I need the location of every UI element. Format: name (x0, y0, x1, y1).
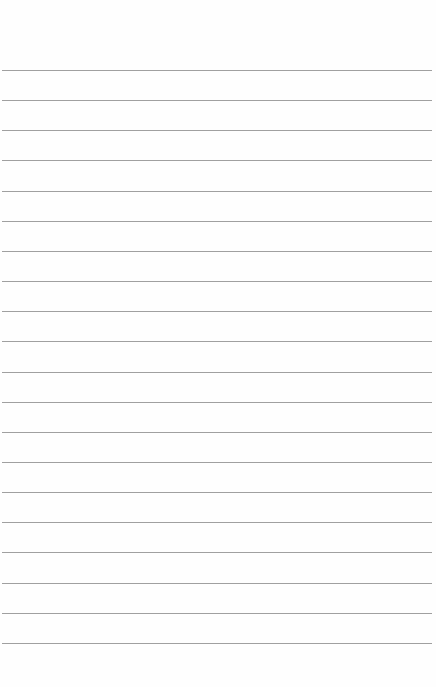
ruled-line (2, 492, 432, 493)
ruled-line (2, 643, 432, 644)
ruled-line (2, 160, 432, 161)
ruled-line (2, 221, 432, 222)
ruled-line (2, 432, 432, 433)
ruled-line (2, 372, 432, 373)
ruled-line (2, 341, 432, 342)
ruled-line (2, 281, 432, 282)
ruled-line (2, 130, 432, 131)
ruled-line (2, 552, 432, 553)
ruled-line (2, 311, 432, 312)
ruled-line (2, 583, 432, 584)
ruled-line (2, 402, 432, 403)
ruled-line (2, 522, 432, 523)
ruled-line (2, 191, 432, 192)
ruled-line (2, 100, 432, 101)
ruled-line (2, 613, 432, 614)
ruled-line (2, 462, 432, 463)
ruled-line (2, 70, 432, 71)
ruled-line (2, 251, 432, 252)
lined-paper-sheet (0, 0, 436, 687)
